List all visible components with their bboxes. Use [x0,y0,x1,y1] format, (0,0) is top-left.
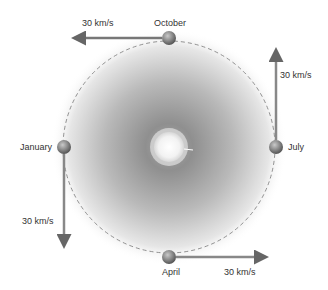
month-label-october: October [154,18,186,28]
earth-icon-october [162,31,176,45]
speed-label-january: 30 km/s [22,216,54,226]
speed-label-october: 30 km/s [82,18,114,28]
earth-icon-january [57,140,71,154]
month-label-july: July [288,142,304,152]
earth-icon-april [162,250,176,264]
speed-label-july: 30 km/s [280,70,312,80]
speed-label-april: 30 km/s [224,267,256,277]
earth-icon-july [269,140,283,154]
month-label-april: April [162,267,180,277]
month-label-january: January [20,142,52,152]
